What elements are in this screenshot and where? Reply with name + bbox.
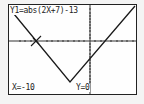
trace-x-value: X=-10 — [12, 84, 35, 92]
equation-label: Y1=abs(2X+7)-13 — [10, 7, 78, 15]
trace-y-value: Y=0 — [76, 84, 90, 92]
function-curve — [14, 6, 135, 82]
